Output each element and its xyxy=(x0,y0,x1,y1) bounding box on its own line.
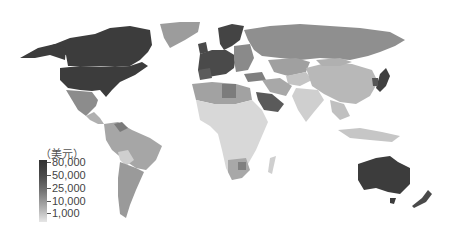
legend-color-bar xyxy=(39,160,47,222)
region-new-zealand xyxy=(412,190,432,208)
region-botswana xyxy=(238,162,246,170)
legend-tick-label: 1,000 xyxy=(52,208,80,219)
legend-tick xyxy=(47,162,51,163)
legend-tick-label: 10,000 xyxy=(52,196,86,207)
region-australia xyxy=(358,156,410,194)
legend: （美元） 80,000 50,000 25,000 10,000 1,000 xyxy=(36,145,116,225)
region-korea xyxy=(372,78,378,86)
region-iberia xyxy=(198,68,212,80)
region-central-america xyxy=(86,112,104,124)
region-japan xyxy=(376,68,390,92)
region-indonesia xyxy=(338,128,400,142)
legend-tick-label: 50,000 xyxy=(52,170,86,181)
legend-tick xyxy=(47,213,51,214)
region-eastern-europe xyxy=(234,44,254,72)
legend-tick-label: 25,000 xyxy=(52,183,86,194)
region-uk-ireland xyxy=(198,42,208,54)
legend-tick xyxy=(47,201,51,202)
region-russia xyxy=(244,24,405,60)
region-mexico xyxy=(66,90,98,116)
region-madagascar xyxy=(268,156,276,174)
region-alaska xyxy=(20,44,66,60)
region-libya xyxy=(222,84,236,98)
legend-tick xyxy=(47,188,51,189)
legend-tick xyxy=(47,175,51,176)
legend-tick-label: 80,000 xyxy=(52,157,86,168)
region-india xyxy=(292,88,324,122)
region-greenland xyxy=(160,22,200,48)
region-southern-cone xyxy=(118,162,144,218)
region-southeast-asia xyxy=(330,100,350,120)
region-tasmania xyxy=(390,198,396,204)
